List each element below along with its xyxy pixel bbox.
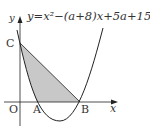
x-axis-label: x <box>110 103 116 114</box>
y-axis-label: y <box>9 13 15 23</box>
point-c-label: C <box>6 38 14 49</box>
point-b-label: B <box>81 104 89 115</box>
point-a-label: A <box>33 104 41 115</box>
origin-label: O <box>9 104 18 115</box>
y-axis-arrow <box>18 16 23 23</box>
equation-label: y=x²−(a+8)x+5a+15 <box>27 11 150 23</box>
